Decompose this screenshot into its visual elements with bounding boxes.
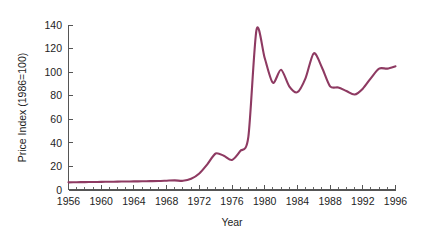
x-tick-label: 1980 [253,195,277,207]
price-index-line [69,27,396,182]
x-axis-tick-labels: 1956196019641968197219761980198419881992… [57,195,408,207]
x-tick-label: 1992 [351,195,375,207]
y-tick-label: 60 [50,113,62,125]
chart-figure: 020406080100120140 195619601964196819721… [0,0,428,238]
y-axis-title: Price Index (1986=100) [16,53,28,162]
x-tick-label: 1984 [286,195,310,207]
x-axis-title: Year [221,216,243,228]
x-tick-label: 1968 [155,195,179,207]
axis-tick-marks [69,25,396,190]
y-tick-label: 100 [44,66,62,78]
x-tick-label: 1976 [220,195,244,207]
x-tick-label: 1996 [384,195,408,207]
y-tick-label: 140 [44,19,62,31]
x-tick-label: 1960 [90,195,114,207]
y-tick-label: 40 [50,137,62,149]
line-chart: 020406080100120140 195619601964196819721… [0,0,428,238]
x-tick-label: 1956 [57,195,81,207]
y-axis-tick-labels: 020406080100120140 [44,19,62,196]
x-tick-label: 1972 [188,195,212,207]
x-tick-label: 1964 [122,195,146,207]
y-tick-label: 20 [50,160,62,172]
y-tick-label: 120 [44,42,62,54]
y-tick-label: 80 [50,89,62,101]
x-tick-label: 1988 [318,195,342,207]
